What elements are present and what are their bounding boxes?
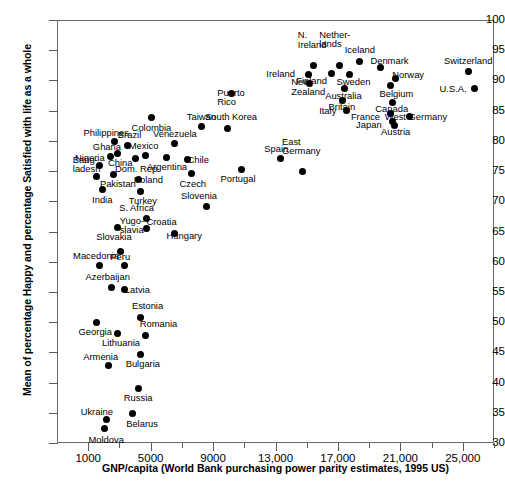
data-point-label: Switzerland	[444, 56, 492, 66]
data-point-label: Mexico	[129, 141, 159, 151]
data-point-label: Argentina	[147, 162, 187, 172]
data-point-label: Ukraine	[81, 407, 113, 417]
data-point-label: Latvia	[125, 285, 150, 295]
data-point-label: Portugal	[221, 174, 256, 184]
data-point-label: Austria	[381, 127, 410, 137]
data-point	[114, 224, 121, 231]
data-point-label: Hungary	[166, 231, 201, 241]
y-tick-label-55: 55	[461, 285, 505, 297]
x-tick-9000	[213, 443, 214, 451]
y-tick-label-100: 100	[461, 13, 505, 25]
data-point	[135, 385, 142, 392]
x-tick-minor-15000	[307, 443, 308, 448]
data-point	[137, 314, 144, 321]
data-point-label: Norway	[392, 70, 424, 80]
data-point-label: Iceland	[345, 45, 375, 55]
y-axis-label: Mean of percentage Happy and percentage …	[21, 5, 33, 435]
data-point-label: Belarus	[126, 419, 158, 429]
data-point-label: Turkey	[129, 196, 157, 206]
y-tick-label-60: 60	[461, 255, 505, 267]
data-point	[310, 62, 317, 69]
data-point-label: Italy	[319, 106, 336, 116]
data-point	[114, 330, 121, 337]
data-point-label: Azerbaijan	[86, 272, 130, 282]
y-tick-label-45: 45	[461, 345, 505, 357]
data-point-label: Armenia	[83, 352, 118, 362]
data-point	[124, 142, 131, 149]
data-point	[93, 319, 100, 326]
data-point	[238, 166, 245, 173]
y-tick-label-90: 90	[461, 73, 505, 85]
data-point-label: India	[92, 195, 112, 205]
data-point	[105, 362, 112, 369]
x-axis-label: GNP/capita (World Bank purchasing power …	[57, 462, 494, 474]
data-point	[137, 188, 144, 195]
y-tick-label-80: 80	[461, 134, 505, 146]
data-point-label: Japan	[356, 120, 382, 130]
x-tick-minor-11000	[244, 443, 245, 448]
y-tick-label-35: 35	[461, 406, 505, 418]
y-tick-label-85: 85	[461, 104, 505, 116]
x-tick-5000	[151, 443, 152, 451]
y-tick-60	[49, 262, 58, 263]
data-point-label: Poland	[134, 175, 163, 185]
y-tick-label-95: 95	[461, 43, 505, 55]
data-point-label: U.S.A.	[440, 84, 467, 94]
data-point-label: Georgia	[79, 327, 112, 337]
x-tick-17000	[338, 443, 339, 451]
data-point	[143, 215, 150, 222]
data-point	[163, 154, 170, 161]
data-point-label: Romania	[140, 319, 178, 329]
data-point-label: Czech	[179, 179, 206, 189]
x-tick-minor-7000	[182, 443, 183, 448]
data-point-label: Chile	[188, 155, 209, 165]
y-tick-55	[49, 292, 58, 293]
x-tick-minor-19000	[369, 443, 370, 448]
y-tick-70	[49, 201, 58, 202]
scatter-plot: Mean of percentage Happy and percentage …	[0, 0, 505, 485]
data-point	[356, 58, 363, 65]
data-point-label: Slovenia	[181, 191, 217, 201]
data-point-label: Estonia	[132, 301, 163, 311]
data-point-label: Pakistan	[100, 179, 136, 189]
y-tick-label-65: 65	[461, 225, 505, 237]
data-point-label: Slovakia	[96, 232, 131, 242]
data-point	[299, 168, 306, 175]
y-tick-label-30: 30	[461, 436, 505, 448]
data-point-label: Puerto Rico	[217, 88, 245, 107]
data-point-label: Moldova	[88, 435, 123, 445]
y-tick-label-40: 40	[461, 376, 505, 388]
data-point-label: Russia	[124, 393, 153, 403]
data-point-label: Spain	[264, 144, 288, 154]
x-tick-21000	[400, 443, 401, 451]
data-point	[188, 170, 195, 177]
y-tick-label-75: 75	[461, 164, 505, 176]
y-tick-85	[49, 111, 58, 112]
data-point-label: Finland	[296, 76, 327, 86]
y-tick-80	[49, 141, 58, 142]
data-point-label: Bulgaria	[126, 359, 160, 369]
data-point-label: South Korea	[205, 112, 257, 122]
y-tick-95	[49, 50, 58, 51]
y-tick-label-70: 70	[461, 194, 505, 206]
y-tick-40	[49, 383, 58, 384]
x-tick-minor-27000	[494, 443, 495, 448]
y-tick-90	[49, 80, 58, 81]
y-tick-35	[49, 413, 58, 414]
x-tick-25000	[463, 443, 464, 451]
y-tick-100	[49, 20, 58, 21]
data-point-label: Lithuania	[102, 338, 140, 348]
data-point	[148, 114, 155, 121]
x-tick-13000	[276, 443, 277, 451]
y-tick-50	[49, 322, 58, 323]
data-point-label: Colombia	[132, 123, 172, 133]
data-point	[137, 351, 144, 358]
y-tick-65	[49, 232, 58, 233]
data-point-label: Belgium	[380, 89, 414, 99]
y-tick-75	[49, 171, 58, 172]
data-point-label: Denmark	[370, 56, 408, 66]
x-tick-minor-23000	[432, 443, 433, 448]
data-point-label: Croatia	[146, 217, 176, 227]
y-tick-30	[49, 443, 58, 444]
y-tick-label-50: 50	[461, 315, 505, 327]
